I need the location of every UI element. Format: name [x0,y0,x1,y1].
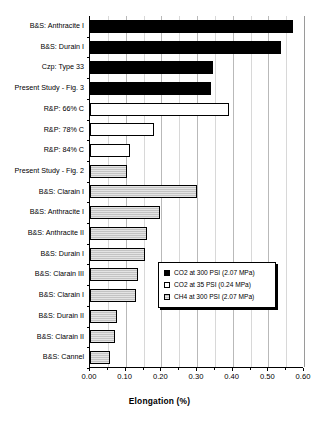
y-axis-category-label: B&S: Anthracite II [28,223,84,244]
y-axis-category-label: R&P: 66% C [44,99,84,120]
bar[interactable] [90,123,154,136]
x-axis-tick-mark-minor [178,368,179,370]
x-axis-tick-label: 0.40 [224,372,239,381]
legend-swatch-ch4-300psi [164,294,170,300]
bar-row [90,285,136,306]
x-axis-tick-mark-minor [250,368,251,370]
x-axis-tick-mark-minor [214,368,215,370]
x-axis-tick-label: 0.00 [82,372,97,381]
bar[interactable] [90,185,197,198]
x-axis-tick-mark [89,368,90,371]
bar-row [90,140,130,161]
y-axis-category-label: B&S: Clarain II [37,327,84,348]
y-axis-category-label: R&P: 84% C [44,140,84,161]
x-axis-tick-mark-minor [285,368,286,370]
bar-row [90,120,154,141]
gridline-major [304,16,305,367]
bar[interactable] [90,144,130,157]
x-axis-tick-label: 0.30 [189,372,204,381]
bar-row [90,327,115,348]
bar-row [90,182,197,203]
bar[interactable] [90,248,145,261]
bar[interactable] [90,165,127,178]
bar[interactable] [90,351,110,364]
x-axis-tick-mark [196,368,197,371]
bar-row [90,57,213,78]
x-axis-tick-mark [160,368,161,371]
y-axis-category-label: B&S: Anthracite I [30,202,84,223]
y-axis-category-label: B&S: Durain I [40,37,84,58]
bar[interactable] [90,82,211,95]
legend-label-ch4-300psi: CH4 at 300 PSI (2.07 MPa) [174,291,254,303]
bar[interactable] [90,227,147,240]
x-axis-tick-mark [267,368,268,371]
y-axis-category-label: R&P: 78% C [44,120,84,141]
y-axis-category-label: Czp: Type 33 [42,57,84,78]
bar[interactable] [90,61,213,74]
x-axis-title: Elongation (%) [0,396,319,406]
bar-row [90,37,281,58]
y-axis-category-label: B&S: Clarain III [35,264,84,285]
bar-row [90,16,293,37]
bar-rows [90,16,303,367]
bar-row [90,244,145,265]
x-axis-tick-label: 0.60 [296,372,311,381]
bar[interactable] [90,310,117,323]
bar-row [90,223,147,244]
bar-row [90,306,117,327]
legend-item-co2-300psi[interactable]: CO2 at 300 PSI (2.07 MPa) [164,267,270,279]
y-axis-category-label: B&S: Cannel [43,347,84,368]
legend-swatch-co2-300psi [164,270,170,276]
x-axis-tick-label: 0.20 [153,372,168,381]
legend-item-co2-35psi[interactable]: CO2 at 35 PSI (0.24 MPa) [164,279,270,291]
y-axis-category-label: Present Study - Fig. 2 [14,161,84,182]
bar-row [90,161,127,182]
x-axis-tick-mark-minor [143,368,144,370]
bar-row [90,202,160,223]
x-axis-tick-mark-minor [107,368,108,370]
bar-row [90,347,110,368]
chart-legend: CO2 at 300 PSI (2.07 MPa) CO2 at 35 PSI … [158,262,276,308]
bar[interactable] [90,268,138,281]
x-axis-tick-mark [303,368,304,371]
y-axis-category-label: B&S: Anthracite I [30,16,84,37]
y-axis-category-label: B&S: Durain II [38,306,84,327]
bar[interactable] [90,103,229,116]
bar[interactable] [90,289,136,302]
x-axis-tick-labels: 0.000.100.200.300.400.500.60 [0,372,319,386]
bar[interactable] [90,206,160,219]
y-axis-category-labels: B&S: Anthracite IB&S: Durain ICzp: Type … [0,16,87,368]
legend-label-co2-35psi: CO2 at 35 PSI (0.24 MPa) [174,279,251,291]
legend-label-co2-300psi: CO2 at 300 PSI (2.07 MPa) [174,267,255,279]
legend-item-ch4-300psi[interactable]: CH4 at 300 PSI (2.07 MPa) [164,291,270,303]
y-axis-category-label: B&S: Clarain I [39,182,84,203]
x-axis-tick-mark [232,368,233,371]
bar-row [90,264,138,285]
bar[interactable] [90,41,281,54]
y-axis-category-label: B&S: Clarain I [39,285,84,306]
elongation-bar-chart: B&S: Anthracite IB&S: Durain ICzp: Type … [0,0,319,430]
bar[interactable] [90,330,115,343]
plot-area [89,16,303,368]
x-axis-tick-label: 0.10 [117,372,132,381]
y-axis-category-label: Present Study - Fig. 3 [14,78,84,99]
x-axis-tick-label: 0.50 [260,372,275,381]
bar-row [90,78,211,99]
x-axis-tick-mark [125,368,126,371]
bar[interactable] [90,20,293,33]
legend-swatch-co2-35psi [164,282,170,288]
y-axis-category-label: B&S: Durain I [40,244,84,265]
bar-row [90,99,229,120]
